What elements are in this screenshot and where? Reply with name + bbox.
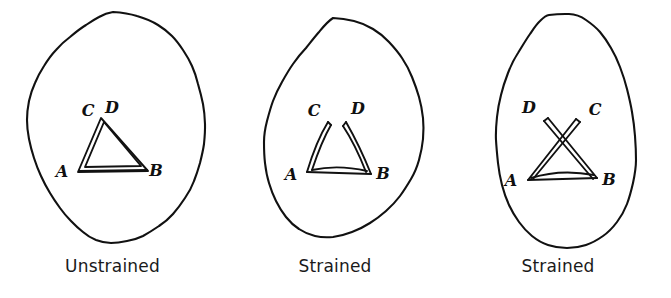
vertex-label-c-strained-crossed: C [589, 100, 602, 119]
limb-bd-inner-strained-separated [343, 126, 366, 172]
base-line-ab-strained-separated [307, 172, 371, 174]
vertex-label-a-strained-crossed: A [503, 171, 517, 190]
panel-unstrained: A B C D Unstrained [0, 0, 225, 298]
vertex-label-c-strained-separated: C [308, 101, 321, 120]
triangle-abd-unstrained [85, 122, 141, 167]
panel-strained-crossed: A B C D Strained [445, 0, 671, 298]
limb-ac-cap-strained-crossed [576, 119, 580, 122]
body-outline-unstrained [27, 12, 205, 243]
vertex-label-d-strained-separated: D [350, 99, 365, 118]
panel-unstrained-drawing: A B C D [0, 0, 225, 258]
caption-strained-separated: Strained [225, 258, 445, 275]
panel-strained-separated: A B C D Strained [225, 0, 445, 298]
panel-strained-separated-drawing: A B C D [225, 0, 445, 258]
base-line-ab-unstrained [79, 170, 147, 171]
vertex-label-a-strained-separated: A [283, 165, 297, 184]
triangle-abc-unstrained [78, 118, 148, 172]
vertex-label-d-strained-crossed: D [521, 98, 536, 117]
vertex-label-b-unstrained: B [148, 161, 163, 180]
limb-bd-strained-separated [346, 122, 371, 174]
limb-bd-strained-crossed [548, 118, 597, 178]
vertex-label-c-unstrained: C [82, 101, 95, 120]
limb-ac-cap-strained-separated [328, 122, 331, 125]
caption-unstrained: Unstrained [0, 258, 225, 275]
panel-strained-crossed-drawing: A B C D [445, 0, 671, 258]
base-line-ab-inner-strained-separated [312, 167, 367, 171]
base-line-ab-strained-crossed [528, 178, 597, 180]
vertex-label-a-unstrained: A [54, 162, 68, 181]
vertex-label-b-strained-separated: B [375, 164, 390, 183]
limb-ac-strained-separated [307, 122, 328, 172]
limb-bd-cap-strained-crossed [544, 118, 548, 121]
limb-ac-inner-strained-crossed [533, 122, 580, 179]
caption-strained-crossed: Strained [445, 258, 671, 275]
limb-bd-cap-strained-separated [343, 122, 346, 126]
vertex-label-d-unstrained: D [104, 98, 119, 117]
base-line-ab-inner-strained-crossed [531, 173, 594, 178]
strain-diagram-figure: A B C D Unstrained A B C D Straine [0, 0, 671, 298]
vertex-label-b-strained-crossed: B [601, 170, 616, 189]
